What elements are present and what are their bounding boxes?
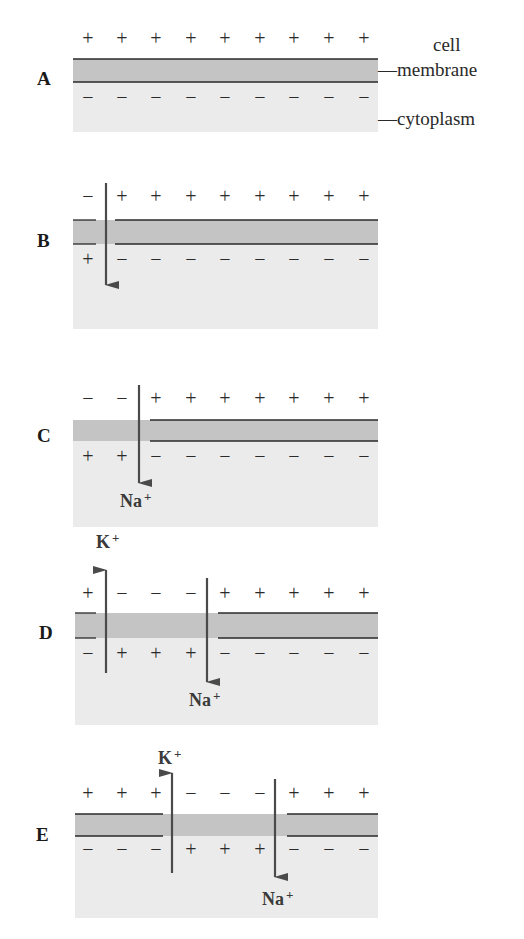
charge: − — [150, 445, 161, 467]
charge: − — [323, 838, 334, 860]
charge: − — [288, 838, 299, 860]
inside-charges: − + + + − − − − − — [82, 642, 369, 664]
charge: + — [219, 387, 230, 409]
charge: − — [116, 387, 127, 409]
membrane-band — [73, 59, 378, 82]
charge: + — [254, 582, 265, 604]
cell-label: cell — [433, 34, 460, 55]
charge: − — [116, 582, 127, 604]
panel-label: E — [36, 824, 49, 845]
charge: + — [82, 445, 93, 467]
charge: − — [185, 445, 196, 467]
charge: + — [116, 782, 127, 804]
charge: + — [254, 27, 265, 49]
charge: + — [150, 27, 161, 49]
charge: + — [288, 387, 299, 409]
charge: − — [323, 445, 334, 467]
charge: − — [358, 838, 369, 860]
charge: − — [150, 86, 161, 108]
charge: + — [358, 782, 369, 804]
charge: + — [82, 27, 93, 49]
charge: − — [185, 86, 196, 108]
charge: − — [323, 86, 334, 108]
charge: + — [288, 27, 299, 49]
charge: − — [185, 782, 196, 804]
membrane-band — [75, 613, 378, 638]
charge: + — [219, 27, 230, 49]
charge: − — [254, 86, 265, 108]
membrane-band — [73, 220, 378, 244]
outside-charges: − − + + + + + + + — [82, 387, 369, 409]
panel-label: A — [37, 68, 51, 89]
charge: + — [219, 838, 230, 860]
inside-charges: + − − − − − − − − — [82, 248, 369, 270]
charge: − — [219, 445, 230, 467]
charge: − — [288, 642, 299, 664]
charge: + — [150, 185, 161, 207]
charge: + — [288, 782, 299, 804]
charge: + — [185, 838, 196, 860]
charge: + — [150, 782, 161, 804]
charge: + — [358, 185, 369, 207]
charge: − — [288, 445, 299, 467]
charge: + — [288, 582, 299, 604]
charge: + — [219, 185, 230, 207]
charge: + — [323, 582, 334, 604]
charge: − — [254, 642, 265, 664]
charge: − — [82, 642, 93, 664]
inside-charges: − − − − − − − − − — [82, 86, 369, 108]
charge: − — [323, 642, 334, 664]
charge: − — [219, 248, 230, 270]
charge: − — [254, 782, 265, 804]
charge: + — [358, 582, 369, 604]
panel-c: − − + + + + + + + + + − − − − − − − Na+ … — [37, 385, 378, 527]
charge: − — [219, 86, 230, 108]
charge: + — [185, 185, 196, 207]
charge: + — [254, 185, 265, 207]
action-potential-diagram: + + + + + + + + + − − − − − − − − − A ce… — [0, 0, 524, 939]
charge: − — [358, 248, 369, 270]
charge: − — [358, 445, 369, 467]
charge: + — [358, 27, 369, 49]
panel-d: + − − − + + + + + − + + + − − − − − K+ N… — [39, 530, 378, 725]
outside-charges: + + + − − − + + + — [82, 782, 369, 804]
charge: + — [323, 185, 334, 207]
charge: − — [219, 642, 230, 664]
charge: + — [219, 582, 230, 604]
charge: − — [82, 86, 93, 108]
charge: − — [185, 248, 196, 270]
charge: + — [116, 185, 127, 207]
outside-charges: + + + + + + + + + — [82, 27, 369, 49]
charge: + — [323, 387, 334, 409]
outside-charges: − + + + + + + + + — [82, 185, 369, 207]
potassium-ion-label: K+ — [96, 530, 119, 552]
charge: − — [288, 86, 299, 108]
charge: − — [323, 248, 334, 270]
membrane-band — [73, 420, 378, 441]
panel-label: D — [39, 622, 53, 643]
charge: + — [82, 582, 93, 604]
charge: − — [219, 782, 230, 804]
charge: − — [185, 582, 196, 604]
panel-e: + + + − − − + + + − − − + + + − − − K+ N… — [36, 746, 378, 918]
charge: + — [116, 445, 127, 467]
charge: − — [254, 445, 265, 467]
charge: + — [254, 387, 265, 409]
charge: + — [116, 27, 127, 49]
cytoplasm-label: —cytoplasm — [377, 108, 475, 129]
charge: + — [185, 27, 196, 49]
charge: + — [150, 642, 161, 664]
charge: + — [116, 642, 127, 664]
charge: + — [185, 642, 196, 664]
charge: − — [116, 248, 127, 270]
charge: − — [150, 582, 161, 604]
charge: − — [358, 642, 369, 664]
charge: + — [82, 248, 93, 270]
charge: − — [82, 838, 93, 860]
inside-charges: + + − − − − − − − — [82, 445, 369, 467]
charge: + — [323, 782, 334, 804]
charge: + — [82, 782, 93, 804]
panel-b: − + + + + + + + + + − − − − − − − − B — [37, 183, 378, 329]
panel-label: C — [37, 425, 51, 446]
charge: − — [358, 86, 369, 108]
